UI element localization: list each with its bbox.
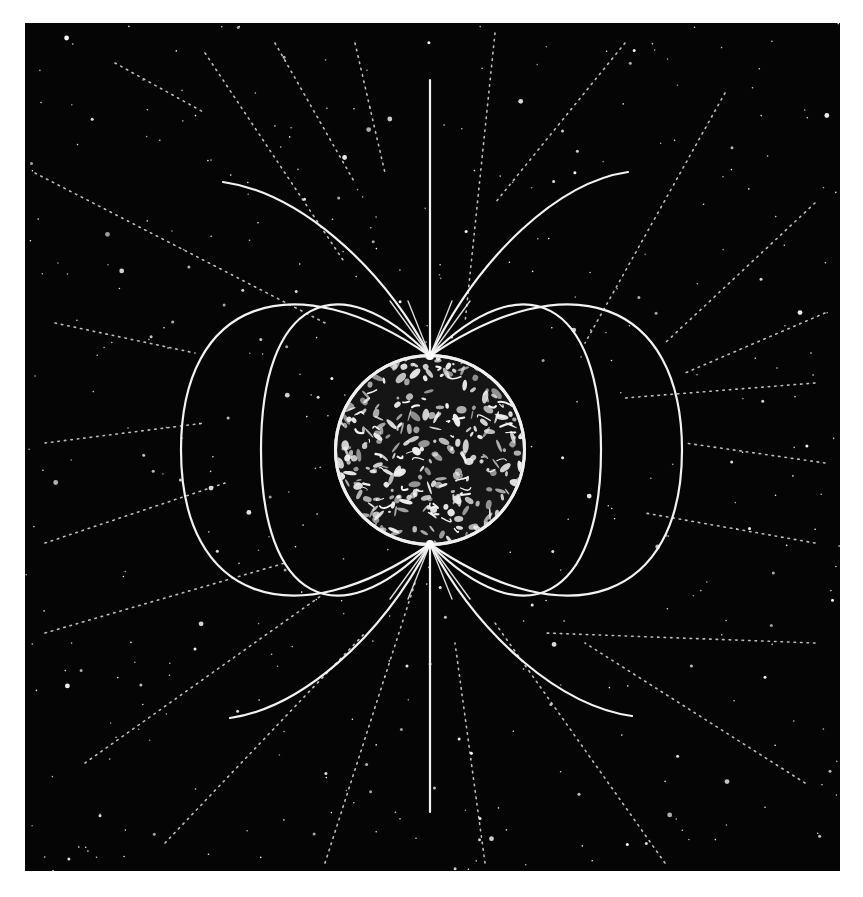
caption-strip	[0, 871, 863, 897]
magnetic-field-illustration	[25, 23, 840, 871]
starfield-panel	[25, 23, 840, 871]
earth-globe	[332, 350, 532, 548]
